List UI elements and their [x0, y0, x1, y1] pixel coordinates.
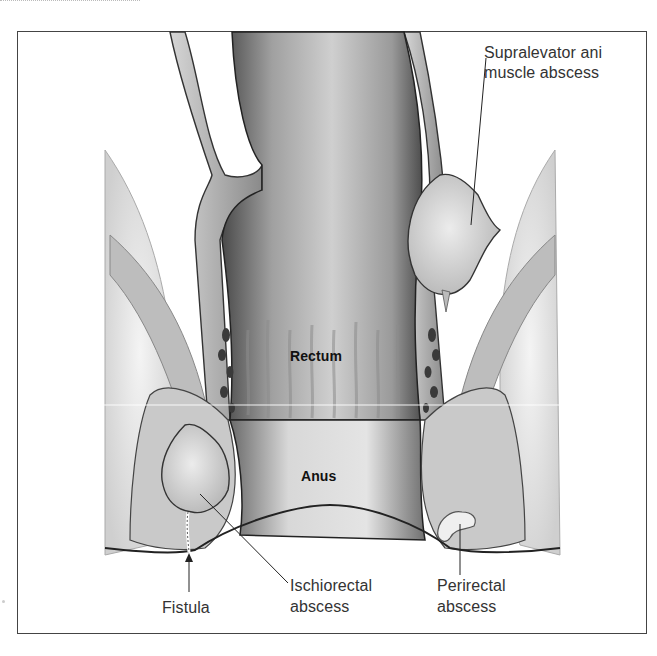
label-perirectal-line1: Perirectal [437, 576, 506, 595]
supralevator-abscess-tail [442, 290, 450, 312]
supralevator-abscess [408, 174, 500, 294]
label-supralevator-line1: Supralevator ani [484, 43, 602, 62]
label-ischiorectal-line1: Ischiorectal [290, 576, 372, 595]
label-ischiorectal-line2: abscess [290, 597, 349, 616]
anatomy-illustration [0, 0, 657, 656]
label-fistula: Fistula [162, 598, 210, 617]
label-rectum: Rectum [290, 347, 342, 366]
leader-fistula-arrowhead [185, 553, 193, 562]
label-anus: Anus [301, 467, 336, 486]
label-supralevator-line2: muscle abscess [484, 63, 599, 82]
label-perirectal-line2: abscess [437, 597, 496, 616]
